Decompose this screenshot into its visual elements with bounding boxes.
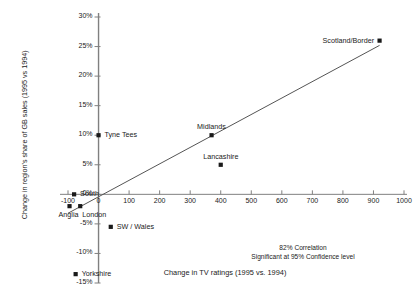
y-tick-label: 30% — [53, 12, 93, 19]
y-tick-label: -15% — [53, 278, 93, 285]
data-point-label: Lancashire — [203, 152, 238, 161]
data-point-marker[interactable] — [96, 133, 100, 137]
annotation-line-1: 82% Correlation — [198, 243, 408, 252]
data-point-label: Anglia — [59, 210, 79, 219]
data-point-label: SW / Wales — [117, 222, 154, 231]
correlation-annotation: 82% Correlation Significant at 95% Confi… — [198, 243, 408, 261]
y-tick-label: -10% — [53, 248, 93, 255]
data-point-label: Tyne Tees — [105, 130, 138, 139]
data-point-label: Yorkshire — [82, 269, 112, 278]
data-point-marker[interactable] — [377, 39, 381, 43]
y-axis-title: Change in region's share of GB sales (19… — [20, 50, 30, 220]
y-tick-label: 20% — [53, 71, 93, 78]
y-tick-label: 15% — [53, 101, 93, 108]
y-tick-label: 5% — [53, 160, 93, 167]
data-point-label: South — [80, 189, 99, 198]
data-point-label: Scotland/Border — [323, 36, 375, 45]
y-tick-label: -5% — [53, 219, 93, 226]
annotation-line-2: Significant at 95% Confidence level — [198, 252, 408, 261]
data-point-marker[interactable] — [74, 272, 78, 276]
y-tick-label: 25% — [53, 42, 93, 49]
data-point-marker[interactable] — [78, 204, 82, 208]
data-point-marker[interactable] — [67, 204, 71, 208]
data-point-marker[interactable] — [209, 133, 213, 137]
data-point-marker[interactable] — [109, 225, 113, 229]
data-point-marker[interactable] — [219, 163, 223, 167]
data-point-label: Midlands — [197, 122, 226, 131]
x-tick-label: 1000 — [384, 197, 415, 204]
y-tick-label: 10% — [53, 130, 93, 137]
y-axis-title-wrap: Change in region's share of GB sales (19… — [2, 60, 26, 230]
x-axis-title: Change in TV ratings (1995 vs. 1994) — [130, 268, 320, 277]
data-point-label: London — [82, 210, 106, 219]
scatter-chart: Change in region's share of GB sales (19… — [0, 0, 415, 293]
